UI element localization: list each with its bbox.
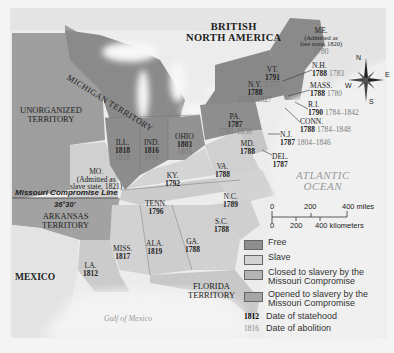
scale-km-400: 400 kilometers [315,222,364,230]
state-nh: N.H. 1788 1783 [312,62,344,77]
scale-km-0: 0 [270,222,274,230]
state-mass: MASS. 1788 1780 [310,82,342,97]
state-ill: ILL. 1818 1818 [115,139,130,162]
state-tenn: TENN. 1796 [145,200,167,215]
scale-km-200: 200 [290,222,303,230]
state-mo: MO. (Admitted as slave state, 1821) [70,168,122,191]
state-ga: GA. 1788 [185,238,200,253]
state-la: LA. 1812 [83,262,98,277]
legend-swatch-slave [244,255,263,265]
state-ind: IND. 1816 1816 [144,139,159,162]
legend-item-opened: Opened to slavery by the Missouri Compro… [244,290,394,309]
state-sc: S.C. 1788 [214,218,229,233]
state-nj: N.J. 1787 1804–1846 [280,131,331,146]
state-ri: R.I. 1790 1784–1842 [308,101,359,116]
scale-miles-0: 0 [270,203,274,211]
state-miss: MISS. 1817 [113,245,132,260]
legend: Free Slave Closed to slavery by the Miss… [244,238,394,337]
atlantic-ocean-label: ATLANTIC OCEAN [296,170,350,192]
legend-swatch-free [244,240,263,250]
arkansas-territory-label: ARKANSAS TERRITORY [42,212,89,229]
compass-e: E [385,71,390,78]
legend-item-closed: Closed to slavery by the Missouri Compro… [244,268,394,287]
state-ohio: OHIO 1803 1803 [175,133,194,156]
state-ny: N.Y. 1788 1799–1827 [238,81,272,104]
gulf-of-mexico-label: Gulf of Mexico [104,315,152,323]
legend-swatch-opened [244,292,263,302]
state-ky: KY. 1792 [165,172,180,187]
florida-territory-label: FLORIDA TERRITORY [188,282,235,299]
compass-w: W [345,82,352,89]
legend-item-free: Free [244,238,394,250]
state-nc: N.C. 1789 [223,193,238,208]
state-pa: PA. 1787 1780–1850 [218,113,252,136]
legend-swatch-closed [244,270,263,280]
missouri-compromise-latitude: 36°30' [54,201,75,209]
legend-item-slave: Slave [244,253,394,265]
state-me: ME. (Admitted as free state, 1820) 1780 [300,27,342,55]
mexico-label: MEXICO [15,273,55,283]
legend-item-abolition: 1816 Date of abolition [244,324,394,333]
state-va: VA. 1788 [215,163,230,178]
state-del: DEL. 1787 [272,153,288,168]
compass-n: N [356,54,361,61]
legend-item-statehood: 1812 Date of statehood [244,312,394,321]
scale-miles-200: 200 [304,203,317,211]
unorganized-territory-label: UNORGANIZED TERRITORY [20,106,82,123]
scale-miles-400: 400 miles [342,203,374,211]
british-north-america-label: BRITISH NORTH AMERICA [186,22,281,43]
state-ala: ALA. 1819 [146,240,163,255]
compass-s: S [369,98,374,105]
state-md: MD. 1788 [240,140,255,155]
